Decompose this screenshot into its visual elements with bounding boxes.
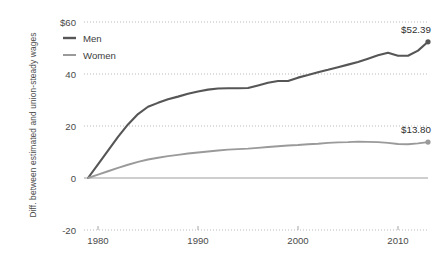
x-axis-tick-labels: 1980199020002010 <box>87 235 408 246</box>
series-lines-group <box>88 42 428 178</box>
y-axis-tick-label: 0 <box>71 173 76 184</box>
legend: MenWomen <box>63 33 116 61</box>
y-axis-tick-labels: $6040200-20 <box>60 17 76 236</box>
y-axis-tick-label: $60 <box>60 17 76 28</box>
y-axis-tick-label: 40 <box>65 69 76 80</box>
x-axis-tick-label: 2000 <box>287 235 308 246</box>
y-axis-tick-label: -20 <box>62 225 76 236</box>
series-line-women <box>88 142 428 178</box>
value-label-women: $13.80 <box>401 124 432 135</box>
chart-container: Diff. between estimated and union-steady… <box>0 0 436 260</box>
gridlines-group <box>84 22 428 230</box>
y-axis-tick-label: 20 <box>65 121 76 132</box>
x-axis-tick-label: 2010 <box>387 235 408 246</box>
x-axis-tick-marks <box>98 226 398 230</box>
value-label-men: $52.39 <box>401 24 431 35</box>
end-point-marker-women <box>425 140 430 145</box>
legend-label-men: Men <box>83 33 102 44</box>
x-axis-tick-label: 1980 <box>87 235 108 246</box>
line-chart-svg: $6040200-20 1980199020002010 $52.39$13.8… <box>0 0 436 260</box>
end-point-marker-men <box>425 39 430 44</box>
x-axis-tick-label: 1990 <box>187 235 208 246</box>
series-line-men <box>88 42 428 178</box>
legend-label-women: Women <box>83 50 116 61</box>
